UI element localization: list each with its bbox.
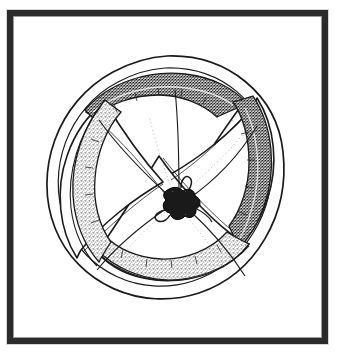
page-root — [0, 0, 337, 356]
rosette-illustration — [13, 16, 322, 338]
picture-frame — [7, 10, 328, 344]
